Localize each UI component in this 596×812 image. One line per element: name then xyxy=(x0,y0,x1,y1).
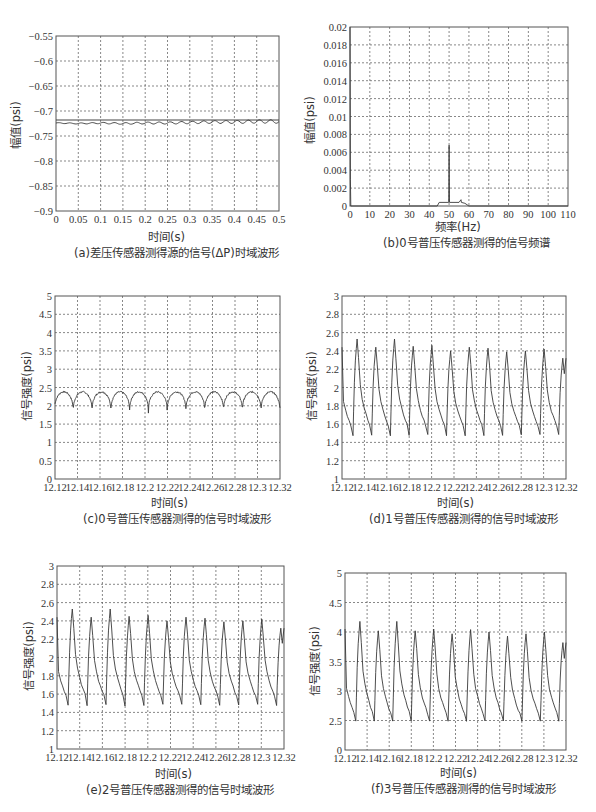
y-tick-label: 2.4 xyxy=(326,346,340,357)
chart-panel-a: 00.050.10.150.20.250.30.350.40.450.5−0.5… xyxy=(29,31,286,225)
y-tick-label: 2.5 xyxy=(329,716,342,727)
panel-f-caption: (f)3号普压传感器测得的信号时域波形 xyxy=(371,780,556,796)
x-tick-label: 110 xyxy=(560,209,575,220)
x-tick-label: 12.28 xyxy=(510,753,534,764)
panel-e-xlabel: 时间(s) xyxy=(155,765,192,781)
y-tick-label: 0.006 xyxy=(323,147,347,158)
y-tick-label: 1.4 xyxy=(326,437,340,448)
y-tick-label: 0.018 xyxy=(323,40,347,51)
panel-b-ylabel: 幅值(psi) xyxy=(301,96,317,143)
y-tick-label: 0.01 xyxy=(329,112,347,123)
panel-d-caption: (d)1号普压传感器测得的信号时域波形 xyxy=(369,510,558,526)
x-tick-label: 80 xyxy=(503,209,514,220)
y-tick-label: 4 xyxy=(337,627,343,638)
y-tick-label: 0 xyxy=(342,201,347,212)
x-tick-label: 12.14 xyxy=(66,482,90,493)
x-tick-label: 12.2 xyxy=(424,753,442,764)
y-tick-label: −0.9 xyxy=(34,206,53,217)
x-tick-label: 0.4 xyxy=(228,214,242,225)
panel-f-xlabel: 时间(s) xyxy=(440,764,477,780)
x-tick-label: 12.22 xyxy=(156,482,180,493)
x-tick-label: 12.26 xyxy=(204,752,228,763)
y-tick-label: 0 xyxy=(337,745,342,756)
x-tick-label: 10 xyxy=(365,209,376,220)
y-tick-label: 2 xyxy=(49,653,54,664)
x-tick-label: 12.3 xyxy=(535,753,553,764)
x-tick-label: 0.35 xyxy=(203,214,221,225)
panel-f-ylabel: 信号强度(psi) xyxy=(306,626,322,695)
x-tick-label: 12.22 xyxy=(444,753,468,764)
x-tick-label: 12.16 xyxy=(91,752,115,763)
x-tick-label: 12.24 xyxy=(466,753,490,764)
series-line-sensor-0 xyxy=(55,391,280,413)
panel-c-ylabel: 信号强度(psi) xyxy=(18,351,34,420)
y-tick-label: 2.2 xyxy=(41,634,54,645)
x-tick-label: 20 xyxy=(384,209,395,220)
x-tick-label: 12.28 xyxy=(227,752,251,763)
x-tick-label: 12.32 xyxy=(268,482,292,493)
x-tick-label: 12.18 xyxy=(111,482,135,493)
y-tick-label: 1.6 xyxy=(326,419,339,430)
x-tick-label: 12.32 xyxy=(272,752,296,763)
y-tick-label: −0.75 xyxy=(29,131,53,142)
chart-panel-e: 12.1212.1412.1612.1812.212.2212.2412.261… xyxy=(41,561,296,763)
y-tick-label: 4 xyxy=(47,328,53,339)
chart-panel-b: 01020304050607080901001100.020.0180.0160… xyxy=(323,22,575,220)
y-tick-label: 1 xyxy=(47,437,52,448)
x-tick-label: 12.2 xyxy=(139,752,157,763)
y-tick-label: 3 xyxy=(47,364,52,375)
y-tick-label: 0.012 xyxy=(323,94,347,105)
y-tick-label: 0.016 xyxy=(323,58,347,69)
y-tick-label: 5 xyxy=(47,291,52,302)
chart-panel-c: 12.1212.1412.1612.1812.212.2212.2412.261… xyxy=(39,291,292,493)
y-tick-label: 2.6 xyxy=(41,598,54,609)
y-tick-label: 3 xyxy=(334,291,339,302)
x-tick-label: 12.22 xyxy=(442,482,466,493)
y-tick-label: 2.6 xyxy=(326,328,339,339)
x-tick-label: 12.22 xyxy=(159,752,183,763)
y-tick-label: 0.5 xyxy=(39,456,52,467)
panel-e-ylabel: 信号强度(psi) xyxy=(20,621,36,690)
y-tick-label: 1.5 xyxy=(39,419,52,430)
x-tick-label: 12.28 xyxy=(509,482,533,493)
chart-panel-f: 12.1212.1412.1612.1812.212.2212.2412.261… xyxy=(329,568,578,764)
panel-d-xlabel: 时间(s) xyxy=(437,494,474,510)
x-tick-label: 0 xyxy=(53,214,58,225)
panel-a-caption: (a)差压传感器测得源的信号(ΔP)时域波形 xyxy=(74,244,279,260)
y-tick-label: 2 xyxy=(47,401,52,412)
y-tick-label: 3 xyxy=(337,686,342,697)
y-tick-label: 4.5 xyxy=(329,598,342,609)
x-tick-label: 12.24 xyxy=(465,482,489,493)
x-tick-label: 12.32 xyxy=(554,482,578,493)
x-tick-label: 12.16 xyxy=(375,482,399,493)
y-tick-label: −0.8 xyxy=(34,156,53,167)
x-tick-label: 0.2 xyxy=(139,214,152,225)
y-tick-label: 1 xyxy=(334,474,339,485)
x-tick-label: 0.3 xyxy=(183,214,196,225)
x-tick-label: 0.05 xyxy=(69,214,87,225)
y-tick-label: −0.7 xyxy=(34,106,53,117)
y-tick-label: −0.65 xyxy=(29,81,53,92)
x-tick-label: 12.24 xyxy=(178,482,202,493)
x-tick-label: 12.16 xyxy=(377,753,401,764)
x-tick-label: 0.15 xyxy=(114,214,132,225)
x-tick-label: 12.26 xyxy=(487,482,511,493)
x-tick-label: 12.24 xyxy=(181,752,205,763)
y-tick-label: 0 xyxy=(47,474,52,485)
panel-e-caption: (e)2号普压传感器测得的信号时域波形 xyxy=(86,781,274,797)
y-tick-label: 2.8 xyxy=(326,309,339,320)
y-tick-label: 1.2 xyxy=(326,456,339,467)
y-tick-label: 2.2 xyxy=(326,364,339,375)
panel-b-xlabel: 频率(Hz) xyxy=(435,218,481,234)
x-tick-label: 12.18 xyxy=(399,753,423,764)
panel-c-caption: (c)0号普压传感器测得的信号时域波形 xyxy=(83,510,271,526)
y-tick-label: 2.5 xyxy=(39,383,52,394)
x-tick-label: 12.3 xyxy=(534,482,552,493)
y-tick-label: 4.5 xyxy=(39,309,52,320)
x-tick-label: 12.16 xyxy=(88,482,112,493)
y-tick-label: 1.6 xyxy=(41,689,54,700)
panel-a-ylabel: 幅值(psi) xyxy=(7,101,23,148)
x-tick-label: 12.14 xyxy=(355,753,379,764)
x-tick-label: 12.18 xyxy=(397,482,421,493)
panel-d-ylabel: 信号强度(psi) xyxy=(303,351,319,420)
